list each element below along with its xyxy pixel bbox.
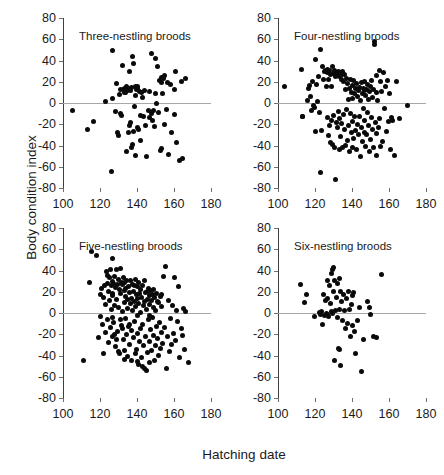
- data-point: [378, 144, 383, 149]
- data-point: [282, 84, 287, 89]
- data-point: [130, 308, 135, 313]
- data-point: [149, 348, 154, 353]
- data-point: [118, 111, 123, 116]
- x-tick-four-nestling-100: [278, 188, 279, 192]
- x-tick-label-three-nestling-180: 180: [201, 198, 222, 211]
- y-tick-label-six-nestling-40: 40: [257, 264, 271, 277]
- data-point: [369, 115, 374, 120]
- data-point: [368, 312, 373, 317]
- panel-four-nestling: -80-60-40-20020406080100120140160180Four…: [278, 18, 426, 188]
- data-point: [344, 296, 349, 301]
- y-tick-label-three-nestling--80: -80: [38, 182, 56, 195]
- data-point: [162, 325, 167, 330]
- data-point: [100, 322, 105, 327]
- data-point: [338, 134, 343, 139]
- data-point: [144, 307, 149, 312]
- data-point: [369, 78, 374, 83]
- data-point: [141, 343, 146, 348]
- data-point: [152, 358, 157, 363]
- data-point: [394, 79, 399, 84]
- data-point: [150, 118, 155, 123]
- y-tick-label-three-nestling--40: -40: [38, 139, 56, 152]
- data-point: [155, 336, 160, 341]
- data-point: [183, 76, 188, 81]
- data-point: [132, 104, 137, 109]
- x-tick-six-nestling-180: [426, 398, 427, 402]
- data-point: [160, 91, 165, 96]
- data-point: [133, 351, 138, 356]
- y-tick-label-six-nestling--60: -60: [253, 371, 271, 384]
- x-tick-six-nestling-120: [315, 398, 316, 402]
- data-point: [164, 107, 169, 112]
- x-tick-label-three-nestling-140: 140: [127, 198, 148, 211]
- data-point: [167, 349, 172, 354]
- data-point: [335, 281, 340, 286]
- data-point: [379, 89, 384, 94]
- data-point: [140, 283, 145, 288]
- data-point: [103, 330, 108, 335]
- data-point: [164, 366, 169, 371]
- y-tick-label-five-nestling-20: 20: [42, 286, 56, 299]
- data-point: [383, 84, 388, 89]
- data-point: [336, 109, 341, 114]
- y-tick-label-five-nestling-0: 0: [49, 307, 56, 320]
- data-point: [129, 328, 134, 333]
- data-point: [118, 266, 123, 271]
- data-point: [356, 132, 361, 137]
- data-point: [335, 315, 340, 320]
- data-point: [382, 106, 387, 111]
- x-tick-label-four-nestling-100: 100: [268, 198, 289, 211]
- data-point: [371, 145, 376, 150]
- data-point: [338, 363, 343, 368]
- data-point: [390, 118, 395, 123]
- data-point: [111, 320, 116, 325]
- data-point: [87, 280, 92, 285]
- data-point: [127, 322, 132, 327]
- x-tick-four-nestling-180: [426, 188, 427, 192]
- y-tick-label-four-nestling--40: -40: [253, 139, 271, 152]
- x-tick-six-nestling-100: [278, 398, 279, 402]
- data-point: [368, 137, 373, 142]
- data-point: [161, 274, 166, 279]
- x-tick-label-six-nestling-120: 120: [305, 408, 326, 421]
- data-point: [319, 128, 324, 133]
- y-tick-label-three-nestling--60: -60: [38, 161, 56, 174]
- data-point: [183, 309, 188, 314]
- data-point: [110, 96, 115, 101]
- data-point: [155, 64, 160, 69]
- data-point: [138, 310, 143, 315]
- y-tick-label-four-nestling--20: -20: [253, 118, 271, 131]
- data-point: [343, 143, 348, 148]
- data-point: [349, 302, 354, 307]
- data-point: [131, 61, 136, 66]
- data-point: [172, 87, 177, 92]
- data-point: [162, 73, 167, 78]
- data-point: [94, 253, 99, 258]
- data-point: [171, 331, 176, 336]
- y-tick-label-four-nestling-60: 60: [257, 33, 271, 46]
- y-tick-label-five-nestling--60: -60: [38, 371, 56, 384]
- data-point: [367, 305, 372, 310]
- data-point: [334, 295, 339, 300]
- data-point: [145, 289, 150, 294]
- data-point: [101, 351, 106, 356]
- data-point: [355, 318, 360, 323]
- data-point: [339, 121, 344, 126]
- data-point: [91, 119, 96, 124]
- data-point: [166, 152, 171, 157]
- x-tick-five-nestling-100: [63, 398, 64, 402]
- data-point: [110, 48, 115, 53]
- data-point: [159, 146, 164, 151]
- data-point: [315, 99, 320, 104]
- data-point: [337, 347, 342, 352]
- y-tick-label-three-nestling-20: 20: [42, 76, 56, 89]
- data-point: [387, 91, 392, 96]
- data-point: [180, 156, 185, 161]
- data-points-six-nestling: [278, 228, 426, 398]
- data-point: [374, 131, 379, 136]
- x-tick-label-five-nestling-100: 100: [53, 408, 74, 421]
- data-point: [70, 108, 75, 113]
- data-point: [307, 83, 312, 88]
- data-point: [108, 267, 113, 272]
- data-point: [154, 101, 159, 106]
